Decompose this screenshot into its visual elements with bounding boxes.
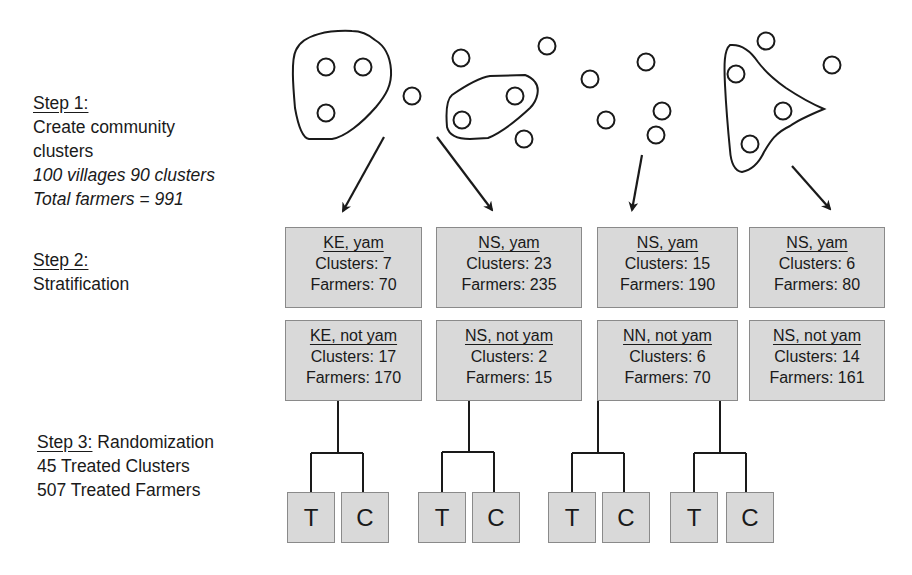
stratum-name: NS, yam (750, 232, 884, 253)
stratum-farmers: Farmers: 15 (437, 367, 581, 388)
stratum-box-ns-not-yam-2: NS, not yam Clusters: 14 Farmers: 161 (749, 320, 885, 401)
stratum-farmers: Farmers: 161 (750, 367, 884, 388)
stratum-box-ke-not-yam: KE, not yam Clusters: 17 Farmers: 170 (285, 320, 422, 401)
stratum-name: KE, not yam (286, 325, 421, 346)
stratum-farmers: Farmers: 170 (286, 367, 421, 388)
stratum-name: KE, yam (286, 232, 421, 253)
stratum-box-nn-not-yam: NN, not yam Clusters: 6 Farmers: 70 (597, 320, 738, 401)
stratum-box-ns-not-yam-1: NS, not yam Clusters: 2 Farmers: 15 (436, 320, 582, 401)
stratum-clusters: Clusters: 2 (437, 346, 581, 367)
treatment-box-4: T (670, 492, 718, 543)
treatment-box-3: T (548, 492, 596, 543)
stratum-farmers: Farmers: 70 (286, 274, 421, 295)
stratum-farmers: Farmers: 70 (598, 367, 737, 388)
cluster-outline-2 (447, 75, 538, 139)
stratum-farmers: Farmers: 190 (598, 274, 737, 295)
control-box-4: C (726, 492, 774, 543)
control-box-3: C (602, 492, 650, 543)
control-box-1: C (341, 492, 389, 543)
stratum-box-ns-yam-2: NS, yam Clusters: 15 Farmers: 190 (597, 227, 738, 308)
stratum-clusters: Clusters: 14 (750, 346, 884, 367)
stratum-name: NS, yam (598, 232, 737, 253)
stratum-clusters: Clusters: 6 (598, 346, 737, 367)
stratum-farmers: Farmers: 80 (750, 274, 884, 295)
stratum-clusters: Clusters: 17 (286, 346, 421, 367)
stratum-box-ns-yam-3: NS, yam Clusters: 6 Farmers: 80 (749, 227, 885, 308)
stratum-name: NS, not yam (750, 325, 884, 346)
stratum-box-ke-yam: KE, yam Clusters: 7 Farmers: 70 (285, 227, 422, 308)
stratum-name: NS, not yam (437, 325, 581, 346)
stratum-name: NS, yam (437, 232, 581, 253)
stratum-farmers: Farmers: 235 (437, 274, 581, 295)
stratum-box-ns-yam-1: NS, yam Clusters: 23 Farmers: 235 (436, 227, 582, 308)
cluster-outline-1 (293, 31, 391, 139)
stratum-clusters: Clusters: 7 (286, 253, 421, 274)
treatment-box-1: T (287, 492, 335, 543)
village-circles (318, 33, 841, 153)
control-box-2: C (472, 492, 520, 543)
stratum-name: NN, not yam (598, 325, 737, 346)
treatment-box-2: T (418, 492, 466, 543)
stratum-clusters: Clusters: 6 (750, 253, 884, 274)
randomization-tree-lines (311, 400, 746, 492)
stratum-clusters: Clusters: 23 (437, 253, 581, 274)
stratum-clusters: Clusters: 15 (598, 253, 737, 274)
